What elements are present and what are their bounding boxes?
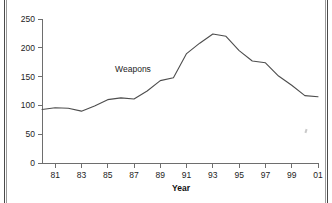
y-axis-tick-label: 50 — [26, 129, 36, 139]
x-axis-tick-labels: 8183858789919395979901 — [50, 170, 323, 180]
scan-artifact-speck — [304, 129, 307, 133]
line-chart: 050100150200250 8183858789919395979901 Y… — [0, 0, 332, 203]
x-axis-title: Year — [172, 183, 191, 193]
x-axis-tick-label: 99 — [287, 170, 297, 180]
x-axis-tick-label: 83 — [77, 170, 87, 180]
x-axis-tick-label: 97 — [261, 170, 271, 180]
x-axis-tick-label: 91 — [182, 170, 192, 180]
y-axis-ticks — [38, 19, 42, 163]
y-axis-tick-label: 150 — [21, 72, 35, 82]
x-axis: 8183858789919395979901 Year — [42, 163, 323, 193]
x-axis-tick-label: 95 — [234, 170, 244, 180]
y-axis-tick-labels: 050100150200250 — [21, 14, 35, 168]
series-annotation-weapons: Weapons — [115, 64, 151, 74]
y-axis-tick-label: 200 — [21, 43, 35, 53]
x-axis-tick-label: 93 — [208, 170, 218, 180]
x-axis-tick-label: 85 — [103, 170, 113, 180]
y-axis-tick-label: 100 — [21, 100, 35, 110]
y-axis-tick-label: 0 — [30, 158, 35, 168]
x-axis-tick-label: 01 — [313, 170, 323, 180]
series-line-weapons — [42, 34, 318, 111]
x-axis-tick-label: 87 — [129, 170, 139, 180]
chart-screenshot: 050100150200250 8183858789919395979901 Y… — [0, 0, 332, 203]
y-axis: 050100150200250 — [21, 14, 42, 168]
x-axis-tick-label: 81 — [50, 170, 60, 180]
y-axis-tick-label: 250 — [21, 14, 35, 24]
x-axis-ticks — [55, 163, 318, 168]
x-axis-tick-label: 89 — [156, 170, 166, 180]
data-series-weapons — [42, 34, 318, 111]
